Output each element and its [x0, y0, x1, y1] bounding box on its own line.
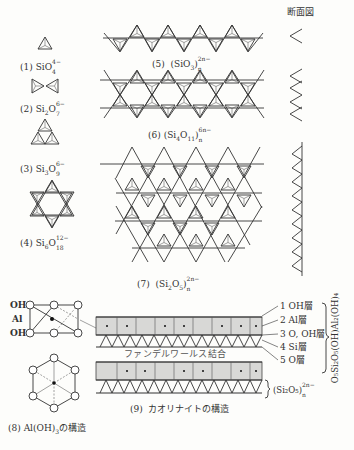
structure-5-chain	[103, 25, 263, 52]
section-view-7	[292, 142, 302, 276]
van-der-waals-label: ファンデルワールス結合	[124, 350, 226, 359]
label-al: Al	[12, 315, 22, 324]
section-view-5	[290, 29, 302, 43]
kaolinite-layer-2	[96, 362, 262, 393]
layer-label-1: 1 OH層	[280, 302, 313, 311]
label-structure-7: (7) (Si2O5)2n−n	[137, 277, 199, 292]
structure-6-double-chain	[100, 70, 264, 118]
aloh3-top-view	[29, 354, 79, 412]
section-view-6	[290, 69, 302, 121]
label-structure-3: (3) Si3O6−9	[20, 162, 65, 177]
layer-label-5: 5 O層	[280, 356, 305, 365]
bracket-formula: (Si₂O₅)2n−n	[273, 383, 315, 398]
label-structure-1: (1) SiO4−4	[20, 60, 61, 75]
caption-structure-9: (9) カオリナイトの構造	[130, 405, 229, 414]
label-structure-5: (5) (SiO3)2n−n	[152, 57, 210, 72]
label-structure-2: (2) Si2O6−7	[20, 102, 65, 117]
structure-3-si3o9	[31, 119, 59, 144]
caption-structure-8: (8) Al(OH)3の構造	[8, 424, 86, 435]
structure-7-sheet	[100, 147, 264, 262]
small-brace	[265, 380, 270, 398]
label-structure-4: (4) Si6O12−18	[20, 236, 69, 251]
label-oh-bottom: OH	[10, 329, 26, 338]
section-view-title: 断面図	[287, 8, 314, 17]
structure-2-si2o7	[32, 79, 58, 93]
structure-4-si6o18	[30, 180, 74, 228]
aloh3-side-view	[26, 301, 100, 337]
layer-leader-lines	[262, 306, 278, 360]
label-oh-top: OH	[10, 301, 26, 310]
kaolinite-layer-1	[96, 317, 262, 347]
label-structure-6: (6) (Si4O11)6n−n	[148, 128, 211, 143]
structure-1-sio4	[38, 37, 52, 49]
layer-label-4: 4 Si層	[280, 343, 307, 352]
layer-label-3: 3 O, OH層	[280, 330, 325, 339]
layer-label-2: 2 Al層	[280, 316, 307, 325]
vertical-formula: O₅Si₂O₅(OH)Al₂(OH)₄	[331, 293, 340, 383]
